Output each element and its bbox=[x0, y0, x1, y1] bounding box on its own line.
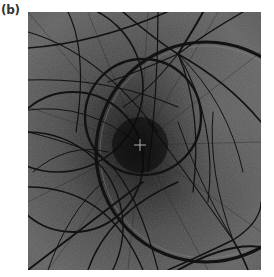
panel-label: (b) bbox=[1, 3, 20, 17]
diffraction-pattern-image bbox=[28, 12, 261, 270]
kikuchi-pattern bbox=[28, 12, 261, 270]
